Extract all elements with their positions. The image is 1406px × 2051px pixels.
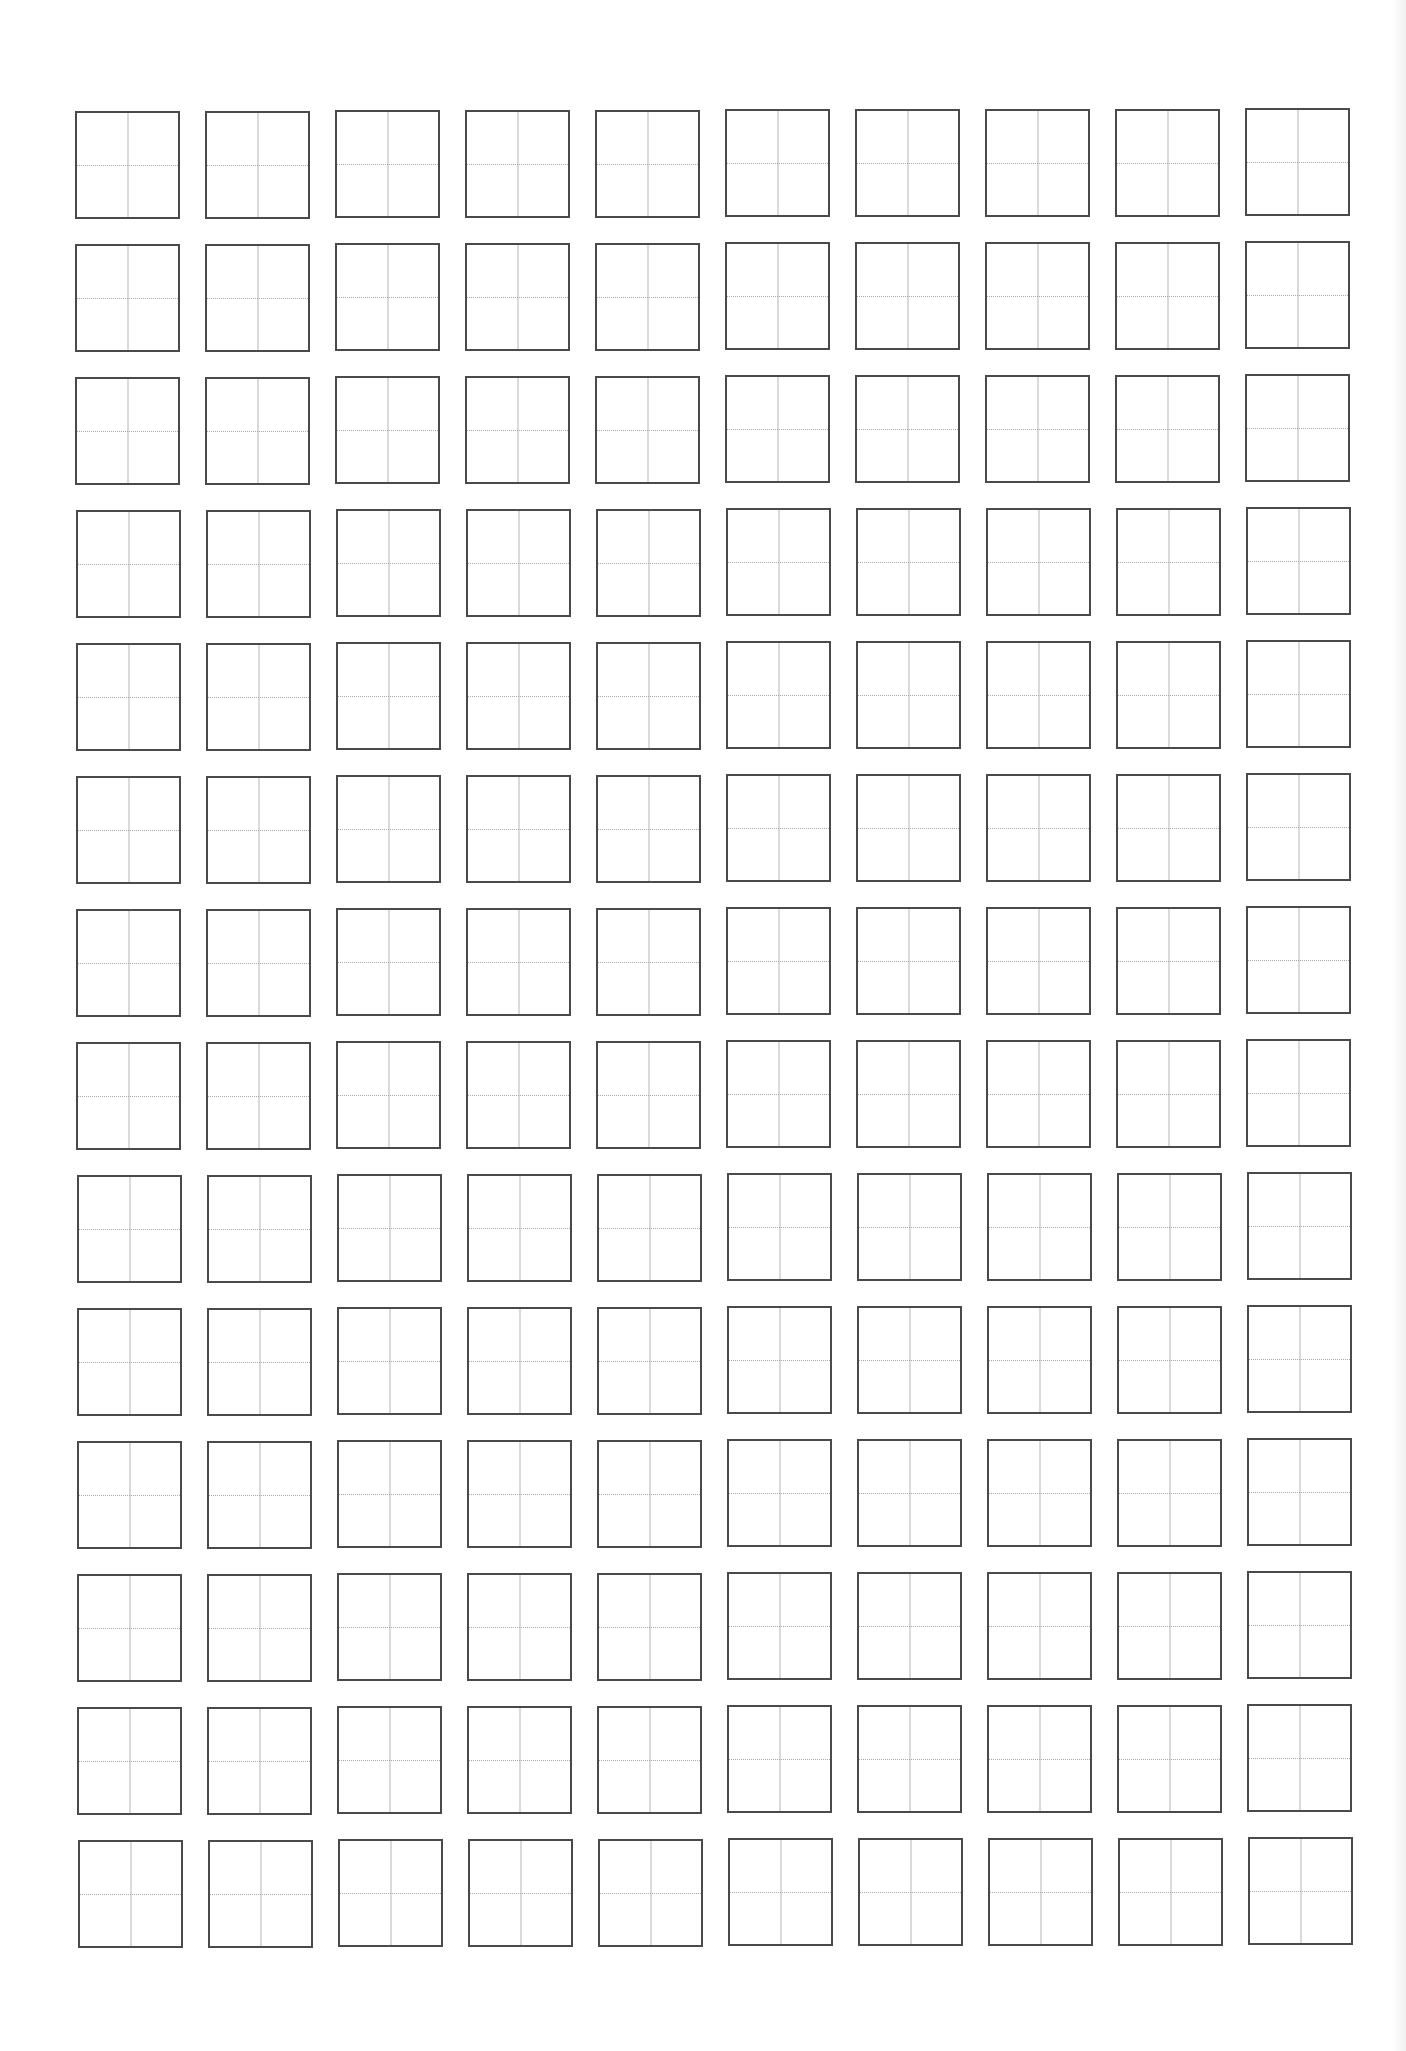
horizontal-guide-line	[728, 961, 829, 962]
practice-cell	[1247, 1571, 1352, 1679]
horizontal-guide-line	[859, 1759, 960, 1760]
practice-cell	[857, 1439, 962, 1547]
practice-cell	[726, 774, 831, 882]
practice-cell	[986, 508, 1091, 616]
practice-cell	[465, 376, 570, 484]
horizontal-guide-line	[78, 830, 179, 831]
horizontal-guide-line	[338, 829, 439, 830]
practice-cell	[76, 1042, 181, 1150]
horizontal-guide-line	[598, 962, 699, 963]
horizontal-guide-line	[1120, 1892, 1221, 1893]
practice-cell	[855, 109, 960, 217]
horizontal-guide-line	[77, 298, 178, 299]
horizontal-guide-line	[989, 1493, 1090, 1494]
horizontal-guide-line	[598, 696, 699, 697]
horizontal-guide-line	[468, 563, 569, 564]
horizontal-guide-line	[989, 1626, 1090, 1627]
horizontal-guide-line	[207, 298, 308, 299]
practice-cell	[987, 1705, 1092, 1813]
practice-cell	[597, 1573, 702, 1681]
practice-cell	[466, 908, 571, 1016]
horizontal-guide-line	[468, 696, 569, 697]
practice-cell	[336, 509, 441, 617]
practice-cell	[337, 1573, 442, 1681]
practice-cell	[855, 242, 960, 350]
practice-cell	[75, 377, 180, 485]
practice-cell	[206, 776, 311, 884]
horizontal-guide-line	[729, 1626, 830, 1627]
horizontal-guide-line	[858, 1094, 959, 1095]
practice-cell	[985, 109, 1090, 217]
horizontal-guide-line	[1118, 695, 1219, 696]
practice-cell	[76, 510, 181, 618]
practice-cell	[856, 641, 961, 749]
horizontal-guide-line	[79, 1229, 180, 1230]
practice-cell	[596, 908, 701, 1016]
horizontal-guide-line	[208, 564, 309, 565]
horizontal-guide-line	[467, 164, 568, 165]
horizontal-guide-line	[338, 563, 439, 564]
horizontal-guide-line	[599, 1627, 700, 1628]
practice-cell	[1118, 1838, 1223, 1946]
practice-cell	[1117, 1572, 1222, 1680]
practice-cell	[336, 775, 441, 883]
practice-cell	[1116, 641, 1221, 749]
horizontal-guide-line	[599, 1760, 700, 1761]
horizontal-guide-line	[598, 563, 699, 564]
practice-cell	[986, 907, 1091, 1015]
horizontal-guide-line	[339, 1494, 440, 1495]
practice-cell	[206, 510, 311, 618]
horizontal-guide-line	[469, 1760, 570, 1761]
practice-cell	[1115, 109, 1220, 217]
practice-cell	[77, 1574, 182, 1682]
practice-cell	[597, 1440, 702, 1548]
practice-cell	[596, 775, 701, 883]
horizontal-guide-line	[1248, 827, 1349, 828]
horizontal-guide-line	[988, 1094, 1089, 1095]
horizontal-guide-line	[1119, 1227, 1220, 1228]
horizontal-guide-line	[1247, 295, 1348, 296]
horizontal-guide-line	[1118, 562, 1219, 563]
practice-cell	[857, 1173, 962, 1281]
horizontal-guide-line	[79, 1362, 180, 1363]
horizontal-guide-line	[209, 1362, 310, 1363]
practice-cell	[1116, 774, 1221, 882]
horizontal-guide-line	[859, 1227, 960, 1228]
practice-cell	[205, 244, 310, 352]
practice-cell	[597, 1174, 702, 1282]
horizontal-guide-line	[857, 429, 958, 430]
horizontal-guide-line	[1118, 961, 1219, 962]
practice-cell	[206, 643, 311, 751]
horizontal-guide-line	[988, 961, 1089, 962]
horizontal-guide-line	[599, 1228, 700, 1229]
practice-cell	[985, 375, 1090, 483]
practice-cell	[77, 1308, 182, 1416]
practice-cell	[206, 1042, 311, 1150]
practice-cell	[1116, 907, 1221, 1015]
horizontal-guide-line	[729, 1227, 830, 1228]
practice-cell	[207, 1175, 312, 1283]
horizontal-guide-line	[468, 829, 569, 830]
practice-cell	[465, 243, 570, 351]
practice-cell	[75, 111, 180, 219]
practice-cell	[597, 1706, 702, 1814]
horizontal-guide-line	[337, 164, 438, 165]
horizontal-guide-line	[598, 1095, 699, 1096]
horizontal-guide-line	[79, 1628, 180, 1629]
practice-cell	[207, 1574, 312, 1682]
horizontal-guide-line	[337, 430, 438, 431]
horizontal-guide-line	[469, 1627, 570, 1628]
horizontal-guide-line	[989, 1227, 1090, 1228]
horizontal-guide-line	[338, 1095, 439, 1096]
practice-cell	[986, 774, 1091, 882]
practice-cell	[985, 242, 1090, 350]
practice-cell	[337, 1307, 442, 1415]
practice-cell	[725, 242, 830, 350]
horizontal-guide-line	[339, 1627, 440, 1628]
practice-cell	[1115, 375, 1220, 483]
practice-cell	[467, 1440, 572, 1548]
horizontal-guide-line	[1248, 561, 1349, 562]
horizontal-guide-line	[730, 1892, 831, 1893]
horizontal-guide-line	[468, 1095, 569, 1096]
horizontal-guide-line	[340, 1893, 441, 1894]
